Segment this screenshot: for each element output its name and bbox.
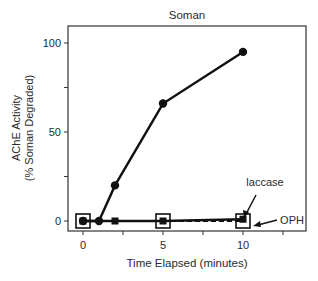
data-point-square bbox=[160, 218, 167, 225]
arrowhead-oph bbox=[253, 221, 261, 227]
y-axis-label-line1: AChE Activity bbox=[10, 94, 22, 161]
chart-title: Soman bbox=[169, 9, 205, 21]
data-point-square bbox=[240, 216, 247, 223]
y-axis-label-line2: (% Soman Degraded) bbox=[23, 75, 35, 181]
arrow-oph bbox=[258, 220, 277, 225]
y-axis: 050100 bbox=[43, 37, 68, 227]
annotation-oph: OPH bbox=[280, 214, 304, 226]
x-tick-label: 5 bbox=[160, 239, 166, 251]
y-tick-label: 100 bbox=[43, 37, 61, 49]
data-point-circle bbox=[111, 181, 119, 189]
series-line bbox=[83, 52, 243, 221]
data-point-circle bbox=[239, 48, 247, 56]
arrow-laccase bbox=[246, 195, 256, 214]
y-tick-label: 0 bbox=[55, 215, 61, 227]
x-axis: 0510 bbox=[80, 231, 283, 251]
x-tick-label: 10 bbox=[237, 239, 249, 251]
annotation-laccase: laccase bbox=[246, 176, 283, 188]
series-control-ache- bbox=[79, 48, 247, 226]
data-point-circle bbox=[159, 99, 167, 107]
x-axis-label: Time Elapsed (minutes) bbox=[126, 257, 247, 269]
data-point-square bbox=[112, 218, 119, 225]
data-point-circle bbox=[79, 217, 87, 225]
annotations: laccaseOPH bbox=[243, 176, 304, 227]
soman-degradation-chart: Soman0501000510Time Elapsed (minutes)ACh… bbox=[0, 0, 318, 281]
y-tick-label: 50 bbox=[49, 126, 61, 138]
x-tick-label: 0 bbox=[80, 239, 86, 251]
y-axis-label: AChE Activity(% Soman Degraded) bbox=[10, 75, 35, 181]
plot-frame bbox=[68, 26, 306, 231]
data-point-circle bbox=[95, 217, 103, 225]
series-laccase bbox=[80, 216, 247, 225]
series-group bbox=[76, 48, 250, 228]
